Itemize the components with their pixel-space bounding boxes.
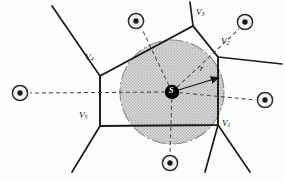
label-radius: r (200, 63, 204, 73)
edge-from-v4-upleft (52, 6, 100, 76)
edge-from-v1-downright (218, 125, 250, 172)
label-v5: V5 (79, 110, 88, 120)
diagram-svg (0, 0, 285, 182)
site-right (257, 92, 272, 107)
figure-canvas: V1 V2 V3 V4 V5 r S (0, 0, 285, 182)
site-top-left (128, 13, 143, 28)
edge-from-v2-right (218, 57, 282, 64)
edge-from-v3-up (190, 2, 193, 26)
label-v3: V3 (196, 7, 205, 17)
label-v2: V2 (221, 36, 230, 46)
site-bottom (162, 155, 177, 170)
label-center-s: S (169, 86, 173, 95)
site-left (12, 85, 27, 100)
edge-from-v5-down (72, 126, 100, 172)
edge-from-v1-down (205, 125, 218, 172)
label-v4: V4 (85, 52, 94, 62)
site-top-right (237, 14, 252, 29)
label-v1: V1 (222, 118, 231, 128)
